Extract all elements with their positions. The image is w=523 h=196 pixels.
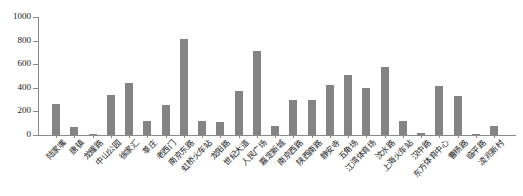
bar — [271, 126, 279, 135]
bar — [107, 95, 115, 135]
bar — [253, 51, 261, 135]
y-axis-tick-label: 1000 — [0, 12, 31, 21]
y-axis-tick-label: 600 — [0, 59, 31, 68]
bar — [143, 121, 151, 135]
y-axis-tick-label: 0 — [0, 130, 31, 139]
bar-chart: 02004006008001000 陆家嘴唐镇龙耀路中山公园徐家汇莘庄老西门南京… — [0, 0, 523, 196]
bar — [344, 75, 352, 135]
bar — [381, 67, 389, 135]
bar-series — [38, 17, 516, 135]
bar — [326, 85, 334, 135]
bar — [308, 100, 316, 135]
x-axis-category-labels: 陆家嘴唐镇龙耀路中山公园徐家汇莘庄老西门南京东路虹桥火车站龙阳路世纪大道人民广场… — [38, 136, 523, 196]
bar — [435, 86, 443, 135]
bar — [70, 127, 78, 135]
y-axis-tick-label: 800 — [0, 36, 31, 45]
bar — [216, 122, 224, 135]
bar — [362, 88, 370, 135]
bar — [235, 91, 243, 135]
bar — [490, 126, 498, 135]
bar — [454, 96, 462, 135]
bar — [417, 133, 425, 135]
bar — [289, 100, 297, 135]
bar — [399, 121, 407, 135]
bar — [125, 83, 133, 136]
y-axis-tick-label: 200 — [0, 106, 31, 115]
bar — [162, 105, 170, 135]
x-axis-category-label: 徐家汇 — [116, 136, 141, 162]
x-axis-category-label: 陆家嘴 — [43, 136, 68, 162]
bar — [180, 39, 188, 135]
bar — [198, 121, 206, 135]
bar — [52, 104, 60, 135]
y-axis-tick-label: 400 — [0, 83, 31, 92]
